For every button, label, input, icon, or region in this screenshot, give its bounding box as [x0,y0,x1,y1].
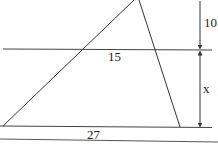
similar-triangles-diagram: 10 15 x 27 [0,0,218,152]
label-base: 27 [87,127,101,142]
label-middle-segment: 15 [108,49,121,64]
label-top-height: 10 [204,15,217,30]
triangle-right-side [139,0,180,127]
label-lower-height: x [203,81,210,96]
bottom-reference-line [0,139,218,142]
